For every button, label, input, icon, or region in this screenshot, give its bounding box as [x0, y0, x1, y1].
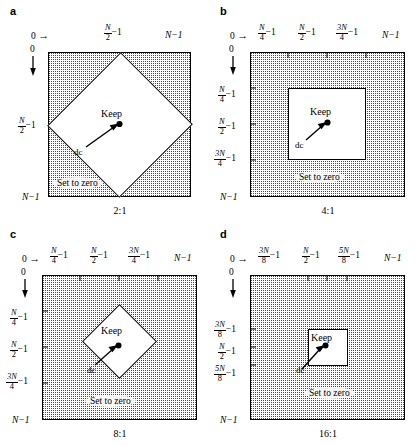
panel-b-left-tick-1: N2−1	[218, 118, 236, 136]
panel-d-set-to-zero-label: Set to zero	[304, 387, 355, 399]
panel-a-left-origin: 0	[30, 44, 35, 54]
panel-c-top-tick-2: 3N4−1	[128, 247, 150, 265]
right-arrow-icon: →	[237, 29, 248, 41]
panel-a: a 0 → N2−1 N−1 0 N2−1 N−1 Keep dc Set to…	[0, 0, 210, 223]
panel-b-dc-label: dc	[295, 141, 304, 150]
panel-a-top-end: N−1	[165, 30, 183, 40]
right-arrow-icon: →	[237, 252, 248, 264]
panel-d-left-origin: 0	[229, 267, 234, 277]
panel-c-left-origin: 0	[21, 267, 26, 277]
panel-d-dc-label: dc	[296, 366, 305, 375]
panel-b-top-tick-0: N4−1	[258, 24, 276, 42]
panel-d-top-origin: 0 →	[230, 253, 248, 264]
panel-b-top-tick-2: 3N4−1	[336, 24, 358, 42]
panel-b-letter: b	[220, 6, 227, 17]
panel-c-top-end: N−1	[174, 253, 192, 263]
panel-b-left-tick-0: N4−1	[218, 86, 236, 104]
panel-b-caption: 4:1	[298, 206, 358, 216]
right-arrow-icon: →	[38, 29, 49, 41]
panel-a-top-origin: 0 →	[31, 30, 49, 41]
panel-c-left-tick-2: 3N4−1	[6, 373, 28, 391]
panel-d-caption: 16:1	[298, 429, 358, 439]
panel-d-left-tick-2: 5N8−1	[214, 365, 236, 383]
panel-b-left-end: N−1	[220, 192, 238, 202]
panel-a-caption: 2:1	[90, 206, 150, 216]
down-arrow-icon	[230, 67, 236, 75]
panel-a-top-tick-0: N2−1	[104, 24, 122, 42]
panel-a-letter: a	[10, 6, 16, 17]
panel-b-top-end: N−1	[382, 30, 400, 40]
panel-d-left-tick-1: N2−1	[218, 343, 236, 361]
panel-b-set-to-zero-label: Set to zero	[294, 171, 345, 183]
panel-c-left-tick-1: N2−1	[10, 341, 28, 359]
panel-b-top-tick-1: N2−1	[298, 24, 316, 42]
panel-c-left-end: N−1	[12, 415, 30, 425]
panel-d-left-tick-0: 3N8−1	[214, 321, 236, 339]
down-arrow-icon	[30, 68, 36, 76]
panel-d-top-end: N−1	[384, 253, 402, 263]
figure-root: a 0 → N2−1 N−1 0 N2−1 N−1 Keep dc Set to…	[0, 0, 420, 446]
panel-d-letter: d	[220, 229, 227, 240]
panel-d-top-tick-0: 3N8−1	[258, 247, 280, 265]
panel-c-keep-label: Keep	[101, 326, 122, 336]
panel-c-top-tick-0: N4−1	[50, 247, 68, 265]
panel-a-keep-label: Keep	[101, 109, 122, 119]
panel-a-left-tick-0: N2−1	[18, 117, 36, 135]
panel-c-letter: c	[10, 229, 16, 240]
panel-b-left-tick-2: 3N4−1	[214, 150, 236, 168]
panel-b: b 0 → N4−1 N2−1 3N4−1 N−1 0 N4−1 N2−1 3N…	[210, 0, 420, 223]
panel-c-top-tick-1: N2−1	[90, 247, 108, 265]
right-arrow-icon: →	[29, 252, 40, 264]
panel-d-top-tick-2: 5N8−1	[338, 247, 360, 265]
panel-a-dc-label: dc	[74, 148, 83, 157]
panel-a-set-to-zero-label: Set to zero	[52, 177, 103, 189]
panel-b-keep-label: Keep	[310, 107, 331, 117]
down-arrow-icon	[22, 290, 28, 298]
down-arrow-icon	[230, 290, 236, 298]
panel-c: c 0 → N4−1 N2−1 3N4−1 N−1 0 N4−1 N2−1 3N…	[0, 223, 210, 446]
panel-d-top-tick-1: N2−1	[302, 247, 320, 265]
panel-d: d 0 → 3N8−1 N2−1 5N8−1 N−1 0 3N8−1 N2−1 …	[210, 223, 420, 446]
panel-d-keep-label: Keep	[311, 333, 332, 343]
panel-c-caption: 8:1	[90, 429, 150, 439]
panel-b-left-origin: 0	[229, 44, 234, 54]
panel-b-top-origin: 0 →	[230, 30, 248, 41]
panel-a-left-end: N−1	[22, 192, 40, 202]
panel-c-set-to-zero-label: Set to zero	[85, 395, 136, 407]
panel-d-left-end: N−1	[220, 415, 238, 425]
panel-c-top-origin: 0 →	[22, 253, 40, 264]
panel-c-dc-label: dc	[87, 366, 96, 375]
panel-c-left-tick-0: N4−1	[10, 309, 28, 327]
